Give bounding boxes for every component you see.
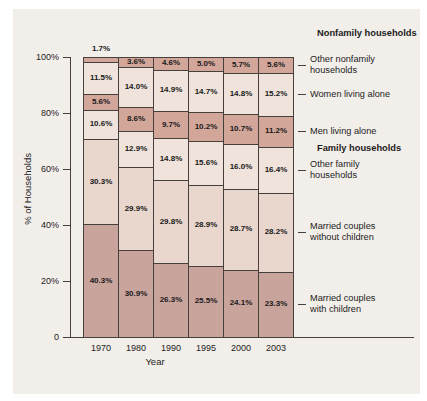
y-tick: [63, 337, 70, 338]
y-tick-label: 100%: [25, 51, 59, 63]
y-tick: [63, 169, 70, 170]
y-tick: [63, 57, 70, 58]
x-tick-label: 1995: [188, 343, 224, 354]
segment-value-label: 25.5%: [188, 296, 224, 306]
bar-segment: [83, 57, 119, 63]
segment-value-label: 16.4%: [258, 165, 294, 175]
series-label-line: Married couples: [310, 294, 375, 305]
label-leader-dash: [298, 131, 306, 132]
segment-value-label: 14.8%: [153, 154, 189, 164]
series-label-line: Other nonfamily: [310, 54, 375, 65]
segment-value-label: 40.3%: [83, 276, 119, 286]
group-header-label: Family households: [317, 143, 401, 154]
series-label-line: without children: [310, 232, 375, 243]
y-tick: [63, 113, 70, 114]
segment-value-label: 9.7%: [153, 120, 189, 130]
segment-value-label: 26.3%: [153, 295, 189, 305]
series-label: Married coupleswithout children: [310, 221, 375, 243]
x-tick-label: 1980: [118, 343, 154, 354]
label-leader-dash: [298, 232, 306, 233]
x-tick-label: 2003: [258, 343, 294, 354]
series-label: Other familyhouseholds: [310, 159, 360, 181]
segment-value-label: 14.0%: [118, 82, 154, 92]
x-tick-label: 1970: [83, 343, 119, 354]
segment-value-label: 10.6%: [83, 119, 119, 129]
label-leader-dash: [298, 65, 306, 66]
segment-value-label: 14.7%: [188, 87, 224, 97]
segment-value-label: 14.8%: [223, 89, 259, 99]
segment-value-label: 10.7%: [223, 124, 259, 134]
series-label: Other nonfamilyhouseholds: [310, 54, 375, 76]
segment-value-label: 3.6%: [118, 57, 154, 67]
series-label-line: Other family: [310, 159, 360, 170]
series-label-line: Married couples: [310, 221, 375, 232]
series-label-line: Men living alone: [310, 126, 376, 137]
segment-value-label: 15.6%: [188, 158, 224, 168]
series-label-line: Women living alone: [310, 89, 390, 100]
segment-value-label: 28.9%: [188, 220, 224, 230]
x-axis-title: Year: [135, 356, 175, 367]
segment-value-label: 11.5%: [83, 73, 119, 83]
segment-value-label: 29.8%: [153, 217, 189, 227]
segment-value-label: 23.3%: [258, 299, 294, 309]
series-label-line: households: [310, 65, 375, 76]
segment-value-label: 11.2%: [258, 126, 294, 136]
segment-value-label: 14.9%: [153, 85, 189, 95]
series-label: Married coupleswith children: [310, 294, 375, 316]
segment-value-label: 16.0%: [223, 162, 259, 172]
segment-value-label: 5.0%: [188, 59, 224, 69]
y-tick-label: 80%: [25, 107, 59, 119]
x-tick-label: 1990: [153, 343, 189, 354]
series-label-line: households: [310, 170, 360, 181]
segment-value-label: 15.2%: [258, 89, 294, 99]
y-tick-label: 0: [25, 331, 59, 343]
y-tick: [63, 281, 70, 282]
y-tick: [63, 225, 70, 226]
segment-value-label: 28.7%: [223, 224, 259, 234]
figure: % of Households Year 100%80%60%40%20%040…: [0, 0, 427, 401]
segment-value-label: 12.9%: [118, 144, 154, 154]
segment-value-label: 10.2%: [188, 122, 224, 132]
y-axis-line: [70, 57, 71, 338]
segment-value-label: 1.7%: [83, 44, 119, 54]
y-tick-label: 60%: [25, 163, 59, 175]
label-leader-dash: [298, 170, 306, 171]
label-leader-dash: [298, 94, 306, 95]
segment-value-label: 30.3%: [83, 177, 119, 187]
series-label: Men living alone: [310, 126, 376, 137]
y-tick-label: 20%: [25, 275, 59, 287]
segment-value-label: 5.7%: [223, 60, 259, 70]
group-header-label: Nonfamily households: [317, 28, 417, 39]
segment-value-label: 29.9%: [118, 204, 154, 214]
segment-value-label: 30.9%: [118, 289, 154, 299]
segment-value-label: 4.6%: [153, 58, 189, 68]
y-tick-label: 40%: [25, 219, 59, 231]
segment-value-label: 5.6%: [258, 60, 294, 70]
segment-value-label: 8.6%: [118, 114, 154, 124]
segment-value-label: 5.6%: [83, 97, 119, 107]
segment-value-label: 24.1%: [223, 298, 259, 308]
series-label: Women living alone: [310, 89, 390, 100]
series-label-line: with children: [310, 304, 375, 315]
segment-value-label: 28.2%: [258, 227, 294, 237]
x-tick-label: 2000: [223, 343, 259, 354]
label-leader-dash: [298, 304, 306, 305]
